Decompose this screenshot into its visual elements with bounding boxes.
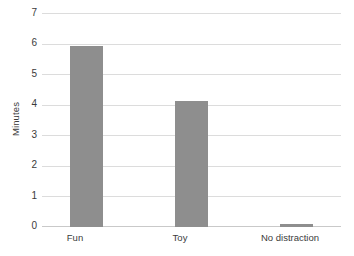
plot-area: [42, 13, 341, 227]
y-axis-title: Minutes: [9, 89, 23, 149]
gridline-6: [42, 44, 341, 45]
bar-chart: Minutes 7 6 5 4 3 2 1 0 Fun Toy No distr…: [0, 0, 354, 256]
bar-toy: [175, 101, 208, 227]
y-tick-label-3: 3: [24, 130, 37, 140]
y-tick-label-4: 4: [24, 99, 37, 109]
gridline-7: [42, 13, 341, 14]
x-tick-label-toy: Toy: [150, 232, 210, 244]
y-tick-label-5: 5: [24, 69, 37, 79]
y-tick-label-0: 0: [24, 221, 37, 231]
y-tick-label-7: 7: [24, 8, 37, 18]
bar-fun: [70, 46, 103, 227]
x-tick-label-no-distraction: No distraction: [240, 232, 340, 244]
x-tick-label-fun: Fun: [45, 232, 105, 244]
bar-no-distraction: [280, 224, 313, 227]
y-tick-label-6: 6: [24, 38, 37, 48]
y-tick-label-1: 1: [24, 191, 37, 201]
y-tick-label-2: 2: [24, 160, 37, 170]
